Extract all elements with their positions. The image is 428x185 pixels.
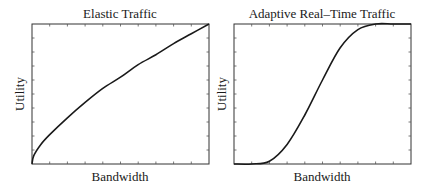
utility-curve [234, 24, 411, 165]
x-axis-label: Bandwidth [91, 169, 149, 184]
adaptive-real-time-traffic-chart: Adaptive Real–Time Traffic Bandwidth Uti… [214, 6, 411, 184]
y-axis-label: Utility [12, 77, 27, 111]
axis-ticks [234, 24, 411, 164]
plot-frame [32, 24, 209, 164]
elastic-traffic-chart: Elastic Traffic Bandwidth Utility [12, 6, 209, 184]
utility-curve [32, 24, 209, 164]
axis-ticks [32, 24, 209, 164]
chart-title: Elastic Traffic [83, 6, 157, 21]
chart-title: Adaptive Real–Time Traffic [249, 6, 396, 21]
figure: Elastic Traffic Bandwidth Utility Adapti… [0, 0, 428, 185]
y-axis-label: Utility [214, 77, 229, 111]
x-axis-label: Bandwidth [293, 169, 351, 184]
plot-frame [234, 24, 411, 164]
